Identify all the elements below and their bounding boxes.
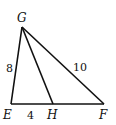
length-label-ge: 8 — [6, 62, 13, 75]
vertex-label-e: E — [2, 108, 12, 122]
vertex-label-g: G — [17, 11, 27, 25]
length-label-gf: 10 — [73, 61, 87, 74]
length-label-eh: 4 — [27, 109, 34, 122]
vertex-label-h: H — [46, 108, 58, 122]
triangle-diagram: G E H F 8 4 10 — [0, 0, 116, 125]
segment-GH — [22, 27, 53, 104]
vertex-label-f: F — [98, 108, 108, 122]
segment-GF — [22, 27, 104, 104]
